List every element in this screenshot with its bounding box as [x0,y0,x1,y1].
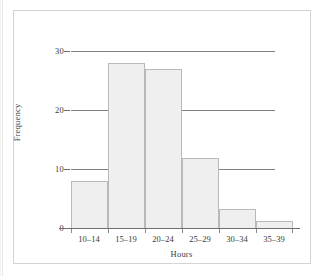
x-tick-mark-5 [256,229,257,233]
y-tick-mark-30 [64,51,70,52]
x-tick-mark-1 [108,229,109,233]
x-tick-label-35-39: 35–39 [251,234,297,244]
x-tick-mark-3 [182,229,183,233]
x-tick-mark-6 [292,229,293,233]
y-tick-label-10-wrap: 10 [32,165,64,174]
histogram-bar-15-19 [108,63,145,229]
y-tick-label-20: 20 [38,106,64,115]
y-tick-label-20-wrap: 20 [32,106,64,115]
y-tick-mark-10 [64,169,70,170]
y-tick-label-30: 30 [38,47,64,56]
histogram-bar-30-34 [219,209,256,229]
x-axis-title: Hours [71,249,292,259]
histogram-bar-25-29 [182,158,219,229]
x-tick-mark-4 [219,229,220,233]
x-tick-mark-2 [145,229,146,233]
y-axis-title: Frequency [13,88,22,158]
histogram-bar-10-14 [71,181,108,229]
x-axis-baseline [59,228,300,229]
y-tick-mark-20 [64,110,70,111]
plot-area: 30 20 10 0 Frequency 10–14 15–19 [0,0,333,276]
x-tick-mark-0 [71,229,72,233]
y-tick-label-30-wrap: 30 [32,47,64,56]
y-tick-label-10: 10 [38,165,64,174]
histogram-figure: 30 20 10 0 Frequency 10–14 15–19 [0,0,333,276]
gridline-30 [71,51,275,52]
histogram-bar-20-24 [145,69,182,229]
